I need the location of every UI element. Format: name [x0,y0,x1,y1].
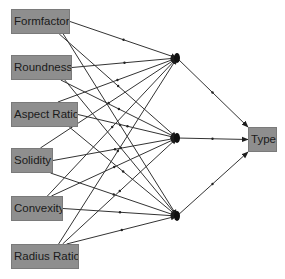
output-node-type: Type [248,127,277,152]
edge-midpoint-dot [119,211,121,213]
input-node-radius-ratio: Radius Ratio [11,244,79,269]
input-node-label: Convexity [14,202,63,214]
edge-midpoint-dot [211,91,213,93]
edge-midpoint-dot [211,138,213,140]
edge-midpoint-dot [117,150,119,152]
edge-midpoint-dot [119,190,121,192]
edge-midpoint-dot [121,229,123,231]
hidden-node-h1 [174,133,180,143]
input-node-label: Radius Ratio [14,250,79,262]
edge-midpoint-dot [118,108,120,110]
edge-midpoint-dot [123,62,125,64]
output-node-label: Type [251,133,276,145]
edge-midpoint-dot [116,79,118,81]
edge-midpoint-dot [114,148,116,150]
edge-midpoint-dot [108,102,110,104]
input-node-roundness: Roundness [11,55,72,80]
input-node-convexity: Convexity [11,196,63,221]
input-node-label: Formfactor [14,15,70,27]
network-diagram [0,0,285,279]
edge-midpoint-dot [111,126,113,128]
input-node-label: Roundness [14,61,72,73]
edge-midpoint-dot [211,183,213,185]
input-node-label: Solidity [14,154,51,166]
input-node-formfactor: Formfactor [11,9,70,34]
edge-midpoint-dot [122,170,124,172]
edge-midpoint-dot [122,39,124,41]
input-node-label: Aspect Ratio [14,108,78,120]
input-node-solidity: Solidity [11,148,53,173]
edge-midpoint-dot [126,125,128,127]
edge-midpoint-dot [113,166,115,168]
input-node-aspect-ratio: Aspect Ratio [11,102,78,127]
edge-midpoint-dot [117,85,119,87]
hidden-node-h0 [174,53,180,63]
hidden-node-h2 [174,211,180,221]
